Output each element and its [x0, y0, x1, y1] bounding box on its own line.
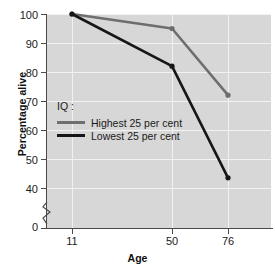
y-tick-label-80: 80: [8, 68, 38, 79]
legend-title: IQ :: [57, 100, 182, 112]
y-axis-title: Percentage alive: [16, 34, 28, 194]
x-axis-line: [41, 228, 273, 229]
y-axis-break-icon: [40, 202, 54, 224]
legend-item-lowest: Lowest 25 per cent: [57, 129, 182, 142]
x-tick-label-11: 11: [52, 236, 92, 247]
legend-swatch-lowest: [57, 134, 85, 137]
x-tick-50: [172, 229, 173, 234]
y-tick-label-100: 100: [8, 10, 38, 21]
y-tick-80: [41, 72, 46, 73]
y-tick-label-50: 50: [8, 155, 38, 166]
y-tick-90: [41, 43, 46, 44]
x-tick-11: [72, 229, 73, 234]
y-tick-60: [41, 130, 46, 131]
gridline-y-50: [47, 159, 271, 160]
y-tick-50: [41, 159, 46, 160]
legend: IQ : Highest 25 per cent Lowest 25 per c…: [57, 100, 182, 142]
gridline-y-80: [47, 72, 271, 73]
y-tick-40: [41, 188, 46, 189]
x-tick-76: [228, 229, 229, 234]
gridline-y-90: [47, 43, 271, 44]
legend-item-highest: Highest 25 per cent: [57, 116, 182, 129]
y-tick-label-40: 40: [8, 184, 38, 195]
x-tick-label-76: 76: [208, 236, 248, 247]
legend-label-lowest: Lowest 25 per cent: [91, 130, 180, 142]
y-tick-100: [41, 14, 46, 15]
x-axis-title: Age: [0, 252, 275, 264]
x-tick-label-50: 50: [152, 236, 192, 247]
y-tick-label-0: 0: [8, 222, 38, 233]
y-axis-line: [46, 14, 47, 228]
y-tick-label-70: 70: [8, 97, 38, 108]
chart-figure: Percentage alive 100 90 80 70 60 50 40 0: [0, 0, 275, 271]
y-tick-70: [41, 101, 46, 102]
gridline-y-40: [47, 188, 271, 189]
y-tick-label-90: 90: [8, 39, 38, 50]
legend-swatch-highest: [57, 121, 85, 124]
y-tick-label-60: 60: [8, 126, 38, 137]
gridline-x-76: [228, 14, 229, 228]
legend-label-highest: Highest 25 per cent: [91, 117, 182, 129]
gridline-y-100: [47, 14, 271, 15]
